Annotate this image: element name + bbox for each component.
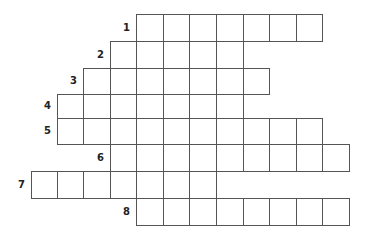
- answer-cell[interactable]: [57, 94, 84, 119]
- answer-cell[interactable]: [322, 144, 350, 172]
- answer-cell[interactable]: [136, 198, 164, 226]
- answer-cell[interactable]: [216, 198, 244, 226]
- answer-cell[interactable]: [83, 68, 111, 95]
- answer-cell[interactable]: [163, 68, 190, 95]
- answer-cell[interactable]: [163, 171, 190, 199]
- answer-cell[interactable]: [216, 144, 244, 172]
- answer-cell[interactable]: [322, 198, 350, 226]
- answer-cell[interactable]: [110, 94, 137, 119]
- answer-cell[interactable]: [83, 94, 111, 119]
- answer-cell[interactable]: [189, 118, 217, 145]
- clue-number: 5: [37, 125, 51, 137]
- clue-number: 1: [116, 22, 130, 34]
- answer-cell[interactable]: [296, 198, 323, 226]
- answer-cell[interactable]: [216, 68, 244, 95]
- answer-cell[interactable]: [189, 14, 217, 42]
- answer-cell[interactable]: [269, 198, 297, 226]
- crossword-grid: 12345678: [0, 0, 368, 232]
- clue-number: 7: [11, 179, 25, 191]
- clue-number: 4: [37, 100, 51, 112]
- answer-cell[interactable]: [110, 144, 137, 172]
- answer-cell[interactable]: [163, 41, 190, 69]
- answer-cell[interactable]: [163, 144, 190, 172]
- answer-cell[interactable]: [216, 118, 244, 145]
- answer-cell[interactable]: [189, 171, 217, 199]
- answer-cell[interactable]: [136, 14, 164, 42]
- answer-cell[interactable]: [110, 118, 137, 145]
- answer-cell[interactable]: [189, 198, 217, 226]
- answer-cell[interactable]: [216, 41, 244, 69]
- answer-cell[interactable]: [189, 144, 217, 172]
- answer-cell[interactable]: [136, 41, 164, 69]
- clue-number: 3: [63, 75, 77, 87]
- answer-cell[interactable]: [136, 144, 164, 172]
- answer-cell[interactable]: [269, 144, 297, 172]
- answer-cell[interactable]: [163, 118, 190, 145]
- answer-cell[interactable]: [189, 68, 217, 95]
- answer-cell[interactable]: [243, 144, 270, 172]
- answer-cell[interactable]: [163, 198, 190, 226]
- answer-cell[interactable]: [243, 14, 270, 42]
- answer-cell[interactable]: [83, 171, 111, 199]
- clue-number: 2: [90, 49, 104, 61]
- answer-cell[interactable]: [136, 118, 164, 145]
- answer-cell[interactable]: [296, 144, 323, 172]
- answer-cell[interactable]: [57, 171, 84, 199]
- answer-cell[interactable]: [136, 171, 164, 199]
- answer-cell[interactable]: [243, 68, 270, 95]
- answer-cell[interactable]: [163, 14, 190, 42]
- answer-cell[interactable]: [110, 171, 137, 199]
- answer-cell[interactable]: [83, 118, 111, 145]
- clue-number: 6: [90, 152, 104, 164]
- clue-number: 8: [116, 206, 130, 218]
- answer-cell[interactable]: [163, 94, 190, 119]
- answer-cell[interactable]: [110, 41, 137, 69]
- answer-cell[interactable]: [31, 171, 58, 199]
- answer-cell[interactable]: [296, 118, 323, 145]
- answer-cell[interactable]: [110, 68, 137, 95]
- answer-cell[interactable]: [136, 94, 164, 119]
- answer-cell[interactable]: [243, 198, 270, 226]
- answer-cell[interactable]: [269, 14, 297, 42]
- answer-cell[interactable]: [57, 118, 84, 145]
- answer-cell[interactable]: [216, 14, 244, 42]
- answer-cell[interactable]: [189, 41, 217, 69]
- answer-cell[interactable]: [269, 118, 297, 145]
- answer-cell[interactable]: [216, 94, 244, 119]
- answer-cell[interactable]: [296, 14, 323, 42]
- answer-cell[interactable]: [189, 94, 217, 119]
- answer-cell[interactable]: [243, 118, 270, 145]
- answer-cell[interactable]: [136, 68, 164, 95]
